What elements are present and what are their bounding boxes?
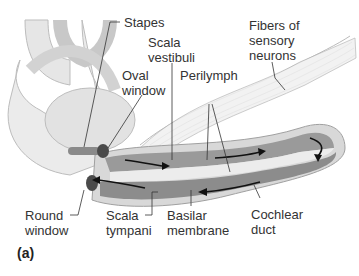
label-oval-window: Oval window xyxy=(122,68,165,98)
oval-window-shape xyxy=(97,144,109,158)
label-cochlear-duct-line2: duct xyxy=(251,222,303,237)
label-perilymph: Perilymph xyxy=(180,68,238,83)
label-round-window: Round window xyxy=(25,208,68,238)
label-fibers-line1: Fibers of xyxy=(249,18,300,33)
label-cochlear-duct: Cochlear duct xyxy=(251,207,303,237)
panel-label: (a) xyxy=(17,245,34,261)
label-fibers-line2: sensory xyxy=(249,33,300,48)
label-scala-tympani-line2: tympani xyxy=(106,223,152,238)
stapes-shape xyxy=(68,147,100,155)
label-round-window-line1: Round xyxy=(25,208,68,223)
label-cochlear-duct-line1: Cochlear xyxy=(251,207,303,222)
label-basilar-line1: Basilar xyxy=(167,208,229,223)
label-basilar-line2: membrane xyxy=(167,223,229,238)
round-window-shape xyxy=(86,175,98,191)
label-stapes: Stapes xyxy=(124,15,164,30)
label-oval-window-line2: window xyxy=(122,83,165,98)
label-scala-tympani: Scala tympani xyxy=(106,208,152,238)
label-basilar-membrane: Basilar membrane xyxy=(167,208,229,238)
label-scala-vestibuli-line2: vestibuli xyxy=(148,50,195,65)
label-scala-vestibuli: Scala vestibuli xyxy=(148,35,195,65)
label-fibers-line3: neurons xyxy=(249,48,300,63)
label-scala-vestibuli-line1: Scala xyxy=(148,35,195,50)
label-scala-tympani-line1: Scala xyxy=(106,208,152,223)
label-round-window-line2: window xyxy=(25,223,68,238)
label-fibers-of-sensory-neurons: Fibers of sensory neurons xyxy=(249,18,300,63)
label-oval-window-line1: Oval xyxy=(122,68,165,83)
